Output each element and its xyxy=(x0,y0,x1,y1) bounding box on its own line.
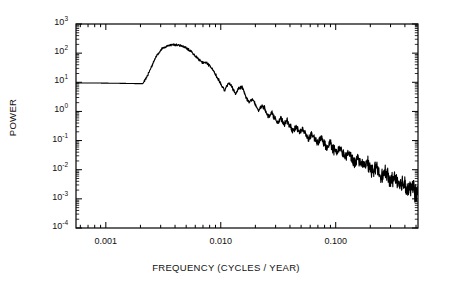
x-axis-title: FREQUENCY (CYCLES / YEAR) xyxy=(0,262,452,273)
power-spectrum-figure: POWER FREQUENCY (CYCLES / YEAR) 0.0010.0… xyxy=(0,0,452,294)
y-axis-title: POWER xyxy=(7,88,18,148)
y-tick-label: 10-1 xyxy=(22,134,68,144)
y-tick-label: 10-2 xyxy=(22,163,68,173)
y-tick-label: 100 xyxy=(22,104,68,114)
y-tick-label: 101 xyxy=(22,75,68,85)
spectrum-line xyxy=(76,44,418,202)
x-tick-label: 0.100 xyxy=(306,236,366,246)
y-tick-label: 10-4 xyxy=(22,221,68,231)
x-tick-label: 0.010 xyxy=(191,236,251,246)
y-tick-label: 102 xyxy=(22,46,68,56)
y-tick-label: 103 xyxy=(22,17,68,27)
plot-frame xyxy=(76,24,418,228)
x-tick-label: 0.001 xyxy=(76,236,136,246)
y-tick-label: 10-3 xyxy=(22,192,68,202)
